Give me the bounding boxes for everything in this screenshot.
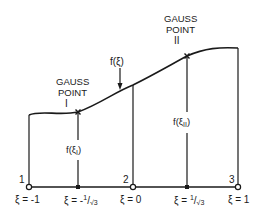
- node-3-xi-label: ξ = 1: [228, 194, 250, 206]
- node-1-number: 1: [19, 174, 25, 185]
- gauss-quadrature-diagram: f(ξ) GAUSS POINT I GAUSS POINT II f(ξI) …: [0, 0, 260, 218]
- gauss-2-xi-label: ξ = 1/√3: [174, 194, 204, 207]
- node-2-xi-label: ξ = 0: [120, 194, 142, 206]
- gauss-point-2-numeral: II: [174, 35, 180, 46]
- gauss-point-2-line2: POINT: [166, 24, 195, 35]
- node-1-circle-icon: [26, 184, 31, 189]
- node-2-circle-icon: [130, 184, 135, 189]
- gauss-point-1-numeral: I: [65, 98, 68, 109]
- gauss-point-1-line1: GAUSS: [56, 76, 89, 87]
- gauss-point-1-line2: POINT: [58, 87, 87, 98]
- gauss-1-xi-label: ξ = -1/√3: [64, 194, 98, 207]
- node-1-xi-label: ξ = -1: [15, 194, 40, 206]
- f-xi-2-label: f(ξII): [173, 116, 190, 128]
- gauss-2-square-icon: [185, 185, 189, 189]
- gauss-point-2-line1: GAUSS: [164, 13, 197, 24]
- arrowhead-icon: [118, 83, 123, 90]
- node-2-number: 2: [123, 174, 129, 185]
- f-xi-1-label: f(ξI): [66, 144, 81, 156]
- gauss-1-square-icon: [76, 185, 80, 189]
- node-3-number: 3: [229, 174, 235, 185]
- node-3-circle-icon: [235, 184, 240, 189]
- function-label: f(ξ): [110, 56, 124, 68]
